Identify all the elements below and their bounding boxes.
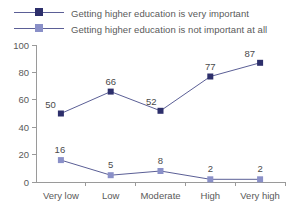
legend-item-series-1[interactable]: Getting higher education is not importan… [0,21,296,37]
x-category-label-1: Low [102,190,120,201]
legend-item-series-0[interactable]: Getting higher education is very importa… [0,5,296,21]
data-point-marker-s0-4[interactable] [257,60,263,66]
data-label-s0-3: 77 [205,61,216,72]
y-tick-label: 40 [18,122,29,133]
data-label-s0-2: 52 [146,96,157,107]
data-point-marker-s0-1[interactable] [108,89,114,95]
y-tick-label: 0 [24,177,29,188]
legend-square-marker-icon [35,24,43,32]
chart-legend: Getting higher education is very importa… [0,0,296,40]
data-point-marker-s1-0[interactable] [58,157,64,163]
data-label-s0-0: 50 [45,99,56,110]
data-label-s1-0: 16 [55,144,66,155]
y-tick-label: 100 [13,40,29,51]
data-point-marker-s1-2[interactable] [158,168,164,174]
legend-key-series-1 [14,22,64,36]
legend-key-series-0 [14,6,64,20]
data-label-s0-1: 66 [105,76,116,87]
plot-area: 020406080100Very lowLowModerateHighVery … [0,40,296,211]
data-label-s0-4: 87 [245,48,256,59]
series-line-0 [61,63,260,114]
data-label-s1-3: 2 [208,163,213,174]
x-category-label-3: High [201,190,221,201]
data-point-marker-s1-1[interactable] [108,172,114,178]
legend-label-series-1: Getting higher education is not importan… [71,24,267,35]
data-label-s1-2: 8 [158,155,163,166]
data-point-marker-s0-2[interactable] [158,108,164,114]
data-label-s1-4: 2 [257,163,262,174]
x-category-label-0: Very low [43,190,79,201]
x-category-label-2: Moderate [140,190,180,201]
data-label-s1-1: 5 [108,159,113,170]
legend-square-marker-icon [35,8,43,16]
y-tick-label: 20 [18,149,29,160]
chart-container: Getting higher education is very importa… [0,0,296,211]
y-tick-label: 80 [18,67,29,78]
data-point-marker-s1-3[interactable] [207,176,213,182]
line-chart-svg: 020406080100Very lowLowModerateHighVery … [0,40,296,211]
x-category-label-4: Very high [240,190,280,201]
legend-label-series-0: Getting higher education is very importa… [71,8,249,19]
data-point-marker-s1-4[interactable] [257,176,263,182]
y-tick-label: 60 [18,94,29,105]
data-point-marker-s0-0[interactable] [58,111,64,117]
data-point-marker-s0-3[interactable] [207,74,213,80]
